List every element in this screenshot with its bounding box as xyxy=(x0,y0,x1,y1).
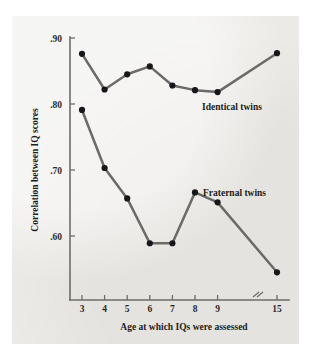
y-axis-tick-label: .70 xyxy=(50,166,62,176)
data-point-marker xyxy=(169,82,175,88)
data-point-marker xyxy=(79,51,85,57)
x-axis-tick-label: 4 xyxy=(102,304,107,314)
chart-series-layer xyxy=(79,50,280,275)
data-point-marker xyxy=(147,240,153,246)
data-point-marker xyxy=(124,71,130,77)
data-point-marker xyxy=(215,89,221,95)
y-axis-tick-label: .60 xyxy=(50,232,62,242)
x-axis-tick-label: 9 xyxy=(215,304,220,314)
data-point-marker xyxy=(192,189,198,195)
y-axis-tick-label: .90 xyxy=(50,34,62,44)
data-point-marker xyxy=(124,195,130,201)
x-axis-tick-label: 5 xyxy=(125,304,130,314)
data-point-marker xyxy=(102,86,108,92)
data-point-marker xyxy=(215,199,221,205)
series-annotation-fraternal-twins: Fraternal twins xyxy=(203,188,266,198)
x-axis-tick-label: 3 xyxy=(80,304,85,314)
figure-container: .90.80.70.60 345678915 Identical twins F… xyxy=(0,0,311,358)
x-axis-title: Age at which IQs were assessed xyxy=(120,322,248,332)
data-point-marker xyxy=(147,63,153,69)
x-axis-tick-label: 8 xyxy=(193,304,198,314)
x-axis-break-mark xyxy=(253,292,263,297)
data-point-marker xyxy=(274,50,280,56)
data-point-marker xyxy=(102,165,108,171)
x-axis-tick-label: 6 xyxy=(147,304,152,314)
data-point-marker xyxy=(169,240,175,246)
series-line xyxy=(82,53,277,92)
y-axis-tick-labels: .90.80.70.60 xyxy=(50,34,62,242)
twin-iq-correlation-line-chart: .90.80.70.60 345678915 Identical twins F… xyxy=(0,0,311,358)
chart-series-identical-twins xyxy=(79,50,280,95)
y-axis-title: Correlation between IQ scores xyxy=(30,108,40,232)
data-point-marker xyxy=(192,87,198,93)
x-axis-tick-labels: 345678915 xyxy=(80,304,282,314)
y-axis-tick-label: .80 xyxy=(50,100,62,110)
x-axis-tick-label: 15 xyxy=(272,304,282,314)
x-axis-tick-label: 7 xyxy=(170,304,175,314)
data-point-marker xyxy=(79,107,85,113)
series-annotation-identical-twins: Identical twins xyxy=(202,102,262,112)
data-point-marker xyxy=(274,269,280,275)
